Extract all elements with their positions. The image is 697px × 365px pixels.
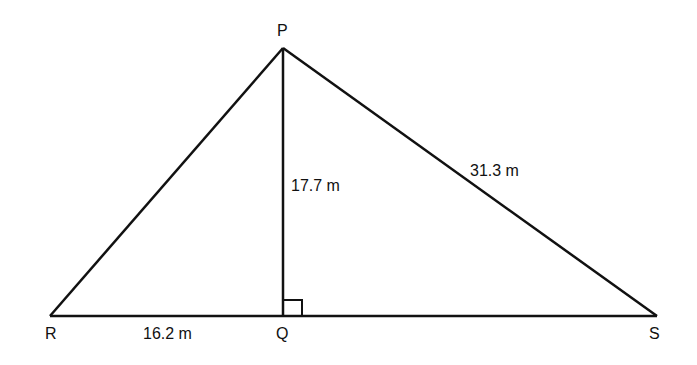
- right-angle-marker: [283, 300, 302, 316]
- measurement-pq: 17.7 m: [291, 177, 340, 195]
- vertex-label-s: S: [649, 325, 660, 343]
- triangle-diagram: [0, 0, 697, 365]
- side-pr: [50, 48, 283, 316]
- vertex-label-q: Q: [276, 325, 288, 343]
- measurement-ps: 31.3 m: [470, 162, 519, 180]
- measurement-rq: 16.2 m: [143, 325, 192, 343]
- vertex-label-p: P: [277, 22, 288, 40]
- vertex-label-r: R: [45, 325, 57, 343]
